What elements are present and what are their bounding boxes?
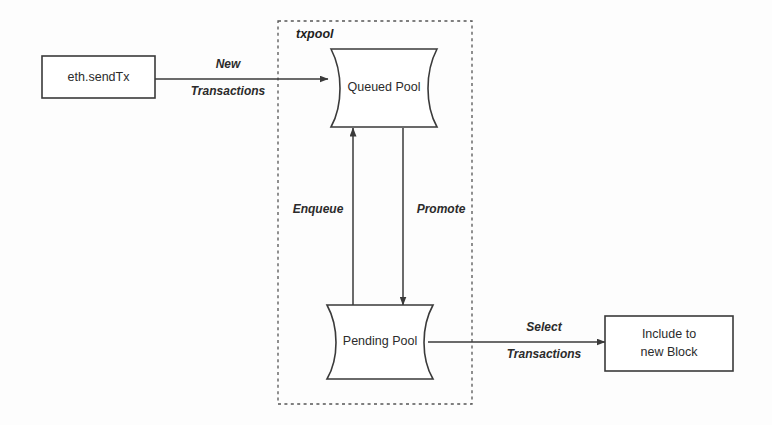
eth-send-tx-label: eth.sendTx [68, 70, 131, 84]
enqueue-label: Enqueue [293, 202, 344, 216]
edge-select-transactions: Select Transactions [428, 320, 605, 361]
select-transactions-label-line1: Select [526, 320, 562, 334]
new-transactions-label-line1: New [216, 57, 241, 71]
node-queued-pool[interactable]: Queued Pool [331, 49, 437, 127]
node-eth-send-tx[interactable]: eth.sendTx [42, 56, 155, 98]
include-to-new-block-label-line2: new Block [641, 345, 699, 359]
include-to-new-block-box[interactable] [605, 316, 733, 371]
edge-enqueue: Enqueue [293, 128, 353, 306]
edge-promote: Promote [403, 128, 466, 305]
diagram-canvas: txpool eth.sendTx New Transactions Queue… [0, 0, 772, 425]
new-transactions-label-line2: Transactions [191, 84, 266, 98]
node-include-to-new-block[interactable]: Include to new Block [605, 316, 733, 371]
pending-pool-label: Pending Pool [343, 334, 417, 348]
flow-diagram: txpool eth.sendTx New Transactions Queue… [0, 0, 772, 425]
select-transactions-label-line2: Transactions [507, 347, 582, 361]
edge-new-transactions: New Transactions [155, 57, 328, 98]
include-to-new-block-label-line1: Include to [642, 327, 696, 341]
txpool-group-label: txpool [296, 27, 334, 41]
promote-label: Promote [417, 202, 466, 216]
queued-pool-label: Queued Pool [348, 80, 421, 94]
node-pending-pool[interactable]: Pending Pool [327, 305, 433, 379]
